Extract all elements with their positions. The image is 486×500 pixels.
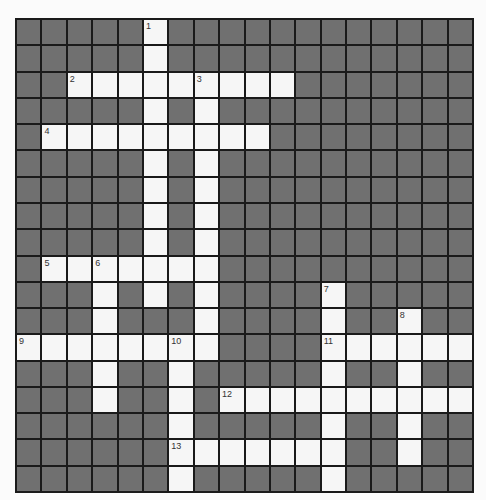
open-cell[interactable] [68,335,91,359]
open-cell[interactable]: 6 [93,257,116,281]
open-cell[interactable] [119,73,142,97]
open-cell[interactable] [42,335,65,359]
open-cell[interactable]: 4 [42,125,65,149]
open-cell[interactable] [322,467,345,491]
open-cell[interactable] [68,125,91,149]
open-cell[interactable] [195,125,218,149]
open-cell[interactable] [372,335,395,359]
open-cell[interactable] [195,335,218,359]
blocked-cell [169,309,192,333]
open-cell[interactable] [220,440,243,464]
blocked-cell [347,440,370,464]
open-cell[interactable] [220,73,243,97]
open-cell[interactable] [144,125,167,149]
blocked-cell [347,414,370,438]
open-cell[interactable] [398,362,421,386]
blocked-cell [195,20,218,44]
open-cell[interactable] [195,178,218,202]
open-cell[interactable] [246,440,269,464]
blocked-cell [42,46,65,70]
open-cell[interactable]: 2 [68,73,91,97]
open-cell[interactable] [144,257,167,281]
blocked-cell [246,178,269,202]
open-cell[interactable] [93,309,116,333]
open-cell[interactable] [322,388,345,412]
open-cell[interactable] [271,440,294,464]
open-cell[interactable] [93,125,116,149]
open-cell[interactable] [119,335,142,359]
blocked-cell [398,283,421,307]
open-cell[interactable] [271,73,294,97]
open-cell[interactable] [398,440,421,464]
open-cell[interactable] [68,257,91,281]
open-cell[interactable] [246,73,269,97]
open-cell[interactable] [322,362,345,386]
open-cell[interactable]: 3 [195,73,218,97]
open-cell[interactable] [423,335,446,359]
open-cell[interactable] [296,388,319,412]
open-cell[interactable] [169,257,192,281]
open-cell[interactable] [271,388,294,412]
open-cell[interactable] [144,230,167,254]
open-cell[interactable] [398,335,421,359]
open-cell[interactable] [144,151,167,175]
open-cell[interactable] [246,388,269,412]
blocked-cell [423,230,446,254]
open-cell[interactable] [93,335,116,359]
open-cell[interactable] [144,178,167,202]
open-cell[interactable] [169,467,192,491]
open-cell[interactable] [322,309,345,333]
open-cell[interactable] [93,362,116,386]
open-cell[interactable]: 1 [144,20,167,44]
open-cell[interactable] [195,204,218,228]
open-cell[interactable] [195,283,218,307]
blocked-cell [17,414,40,438]
open-cell[interactable] [169,125,192,149]
open-cell[interactable] [93,73,116,97]
open-cell[interactable] [144,99,167,123]
open-cell[interactable] [144,73,167,97]
open-cell[interactable] [347,335,370,359]
open-cell[interactable]: 10 [169,335,192,359]
open-cell[interactable] [195,151,218,175]
open-cell[interactable] [322,440,345,464]
open-cell[interactable] [246,125,269,149]
open-cell[interactable] [449,335,472,359]
open-cell[interactable] [93,388,116,412]
open-cell[interactable]: 11 [322,335,345,359]
open-cell[interactable]: 9 [17,335,40,359]
open-cell[interactable] [347,388,370,412]
open-cell[interactable] [195,257,218,281]
open-cell[interactable] [144,204,167,228]
open-cell[interactable] [144,335,167,359]
open-cell[interactable] [449,388,472,412]
open-cell[interactable] [169,414,192,438]
open-cell[interactable] [296,440,319,464]
open-cell[interactable] [119,125,142,149]
open-cell[interactable] [93,283,116,307]
blocked-cell [322,99,345,123]
open-cell[interactable]: 13 [169,440,192,464]
open-cell[interactable] [119,257,142,281]
open-cell[interactable]: 5 [42,257,65,281]
open-cell[interactable] [398,414,421,438]
open-cell[interactable] [195,309,218,333]
open-cell[interactable] [169,73,192,97]
open-cell[interactable] [398,388,421,412]
open-cell[interactable]: 8 [398,309,421,333]
open-cell[interactable] [322,414,345,438]
open-cell[interactable] [169,388,192,412]
open-cell[interactable] [423,388,446,412]
clue-number: 2 [70,74,75,84]
open-cell[interactable] [195,230,218,254]
open-cell[interactable]: 7 [322,283,345,307]
open-cell[interactable] [372,388,395,412]
open-cell[interactable] [195,99,218,123]
open-cell[interactable]: 12 [220,388,243,412]
open-cell[interactable] [169,362,192,386]
open-cell[interactable] [144,46,167,70]
blocked-cell [246,20,269,44]
open-cell[interactable] [195,440,218,464]
open-cell[interactable] [220,125,243,149]
open-cell[interactable] [144,283,167,307]
